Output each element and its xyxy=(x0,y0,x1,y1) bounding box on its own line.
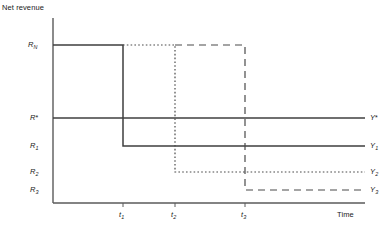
series-label-y-star: Y* xyxy=(370,113,378,122)
y-tick-label-r-star: R* xyxy=(30,113,38,122)
x-tick-label-t1: t1 xyxy=(119,210,124,219)
y-tick-label-r1: R1 xyxy=(30,141,38,150)
series-line-y1 xyxy=(53,45,365,146)
chart-figure: Net revenue RN R* R1 R2 R3 t1 t2 t3 Time xyxy=(0,0,391,241)
series-label-y2: Y2 xyxy=(370,167,378,176)
series-label-y3: Y3 xyxy=(370,185,378,194)
y-tick-label-rn: RN xyxy=(28,40,37,49)
chart-plot-area xyxy=(0,0,391,241)
x-tick-label-t3: t3 xyxy=(241,210,246,219)
x-tick-label-t2: t2 xyxy=(171,210,176,219)
series-label-y1: Y1 xyxy=(370,141,378,150)
series-line-y2 xyxy=(123,45,365,172)
y-tick-label-r3: R3 xyxy=(30,185,38,194)
x-axis-title: Time xyxy=(337,210,354,219)
y-tick-label-r2: R2 xyxy=(30,167,38,176)
